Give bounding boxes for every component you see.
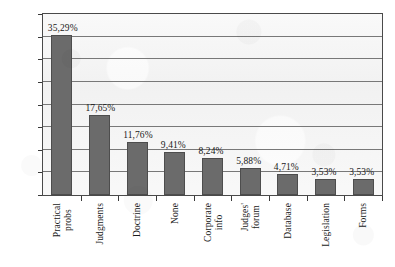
y-axis-tick-mark [38,82,42,83]
x-axis-category-label: Database [281,203,295,263]
y-axis-tick-mark [38,172,42,173]
bar [202,158,223,195]
x-axis-category-label: Doctrine [130,203,144,263]
y-axis-tick-mark [38,150,42,151]
gridline [43,58,382,59]
x-axis-tick-mark [231,196,232,201]
bar-value-label: 5,88% [236,156,261,166]
bar-value-label: 3,53% [312,167,337,177]
bar [277,174,298,195]
bar-value-label: 3,53% [349,167,374,177]
x-axis-tick-mark [269,196,270,201]
bar-value-label: 35,29% [48,23,78,33]
y-axis-tick-mark [38,195,42,196]
bar-chart: 0%5%10%15%20%25%30%35%40% 35,29%17,65%11… [0,0,395,267]
bar [164,152,185,195]
x-axis-category-label-line: probs [62,203,73,237]
bar-value-label: 9,41% [161,140,186,150]
x-axis-category-label-line: info [213,203,224,242]
x-axis-category-label-line: Doctrine [132,203,143,237]
gridline [43,36,382,37]
y-axis-tick-mark [38,14,42,15]
bar [240,168,261,195]
x-axis-category-label-line: Corporate [202,203,213,242]
x-axis-category-label: Legislation [319,203,333,263]
x-axis-category-label: Judgments [93,203,107,263]
x-axis-tick-mark [118,196,119,201]
x-axis-tick-mark [344,196,345,201]
x-axis-category-label-line: Judgments [94,203,105,245]
x-axis-tick-mark [194,196,195,201]
x-axis-tick-mark [307,196,308,201]
gridline [43,81,382,82]
x-axis-category-label: Forms [356,203,370,263]
x-axis-tick-mark [382,196,383,201]
bar [127,142,148,195]
bar [353,179,374,195]
x-axis-category-label-line: Forms [358,203,369,228]
y-axis-tick-mark [38,37,42,38]
x-axis-category-label: None [168,203,182,263]
bar [315,179,336,195]
x-axis-category-label-line: None [170,203,181,224]
x-axis-tick-mark [156,196,157,201]
y-axis-tick-mark [38,59,42,60]
x-axis-category-label: Practicalprobs [55,203,69,263]
bar-value-label: 11,76% [123,130,153,140]
bar-value-label: 17,65% [86,103,116,113]
y-axis-tick-mark [38,127,42,128]
x-axis-category-label-line: Practical [51,203,62,237]
bar-value-label: 8,24% [199,146,224,156]
x-axis-category-label-line: Judges' [240,203,251,231]
bar-value-label: 4,71% [274,162,299,172]
x-axis-category-label-line: Legislation [320,203,331,247]
bar [51,35,72,195]
x-axis-category-label: Judges'forum [243,203,257,263]
x-axis-category-label-line: Database [283,203,294,239]
y-axis-tick-mark [38,105,42,106]
x-axis-category-label-line: forum [250,203,261,231]
bar [89,115,110,195]
x-axis-category-label: Corporateinfo [206,203,220,263]
x-axis-tick-mark [81,196,82,201]
